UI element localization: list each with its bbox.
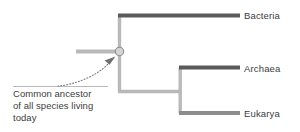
common-ancestor-node-icon [115, 47, 123, 55]
annotation-arrowhead-icon [105, 57, 116, 65]
annotation-dotted-curve-icon [58, 62, 110, 86]
taxon-label-archaea: Archaea [244, 63, 280, 74]
annotation-pointer [13, 57, 115, 87]
common-ancestor-annotation: Common ancestor of all species living to… [13, 88, 115, 125]
taxon-label-eukarya: Eukarya [244, 108, 280, 119]
annotation-line-1: Common ancestor [13, 88, 115, 100]
taxon-label-bacteria: Bacteria [244, 10, 280, 21]
annotation-line-3: today [13, 112, 115, 124]
phylogenetic-tree-figure: Bacteria Archaea Eukarya Common ancestor… [0, 0, 300, 132]
annotation-line-2: of all species living [13, 100, 115, 112]
